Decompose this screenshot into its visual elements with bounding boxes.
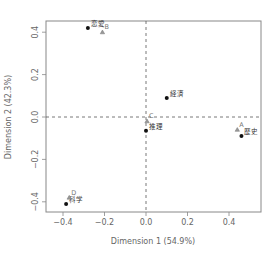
x-tick-label: −0.4	[53, 218, 72, 227]
y-tick-label: 0.4	[31, 26, 40, 39]
y-axis: −0.4−0.20.00.20.4	[31, 26, 46, 212]
y-axis-title: Dimension 2 (42.3%)	[4, 75, 13, 159]
correspondence-analysis-plot: −0.4−0.20.00.20.4 −0.4−0.20.00.20.4 恋愛経済…	[0, 0, 275, 256]
y-tick-label: −0.4	[31, 192, 40, 211]
circle-marker-icon	[165, 96, 169, 100]
data-point: A	[235, 121, 244, 132]
x-axis-title: Dimension 1 (54.9%)	[111, 237, 195, 246]
point-label: C	[149, 112, 154, 120]
y-tick-label: 0.0	[31, 111, 40, 124]
y-tick-label: −0.2	[31, 150, 40, 169]
point-label: 推理	[149, 122, 163, 131]
point-label: D	[71, 189, 76, 197]
point-label: 恋愛	[91, 19, 105, 28]
circle-marker-icon	[86, 26, 90, 30]
data-point: 推理	[144, 122, 163, 133]
data-points: 恋愛経済推理歴史科学ABCD	[64, 19, 258, 206]
circle-marker-icon	[239, 134, 243, 138]
circle-marker-icon	[64, 202, 68, 206]
x-axis: −0.4−0.20.00.20.4	[53, 212, 235, 227]
circle-marker-icon	[144, 129, 148, 133]
data-point: 科学	[64, 195, 83, 206]
point-label: B	[104, 23, 108, 31]
point-label: 経済	[170, 89, 184, 98]
x-tick-label: −0.2	[95, 218, 114, 227]
x-tick-label: 0.0	[140, 218, 153, 227]
x-tick-label: 0.4	[223, 218, 236, 227]
point-label: 歴史	[244, 127, 258, 136]
data-point: 経済	[165, 89, 184, 100]
y-tick-label: 0.2	[31, 68, 40, 81]
point-label: A	[239, 121, 244, 129]
x-tick-label: 0.2	[181, 218, 194, 227]
